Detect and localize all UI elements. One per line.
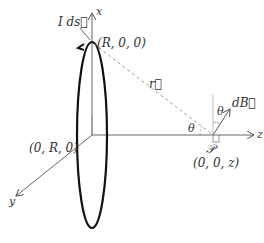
x-axis-label: x: [96, 6, 102, 17]
current-direction-arrow: [78, 44, 84, 50]
diagram-canvas: x z y I ds⃗ (R, 0, 0) (0, R, 0) r⃗ θ θ d…: [0, 0, 264, 243]
y-axis-label: y: [9, 196, 15, 207]
point-P-label: 𝒫: [206, 143, 215, 155]
point-P-coords: (0, 0, z): [193, 157, 239, 169]
side-point-label: (0, R, 0): [29, 142, 78, 154]
theta-arc-dB: [213, 122, 220, 124]
current-element-label: I ds⃗: [58, 16, 88, 28]
ids-pointer: [80, 28, 90, 40]
theta-label-P: θ: [188, 123, 195, 134]
theta-arc-P: [200, 127, 202, 135]
dB-label: dB⃗: [232, 97, 256, 109]
z-axis-label: z: [257, 129, 263, 140]
top-point-label: (R, 0, 0): [97, 37, 146, 49]
theta-label-dB: θ: [217, 106, 224, 117]
r-vector-label: r⃗: [149, 78, 162, 90]
right-angle-marker: [213, 135, 219, 142]
